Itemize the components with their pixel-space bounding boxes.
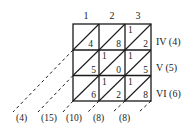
diagonal-sum: (10) (66, 113, 82, 124)
diagonal-sum: (8) (119, 113, 130, 124)
cell-tens: 1 (128, 77, 133, 87)
row-label: VI (6) (156, 88, 181, 100)
row-label: IV (4) (156, 36, 181, 48)
lattice-diagram: 1 2 3 IV (4) V (5) VI (6) 4 8 1 2 5 1 0 … (0, 0, 194, 129)
cell-units: 5 (91, 65, 96, 75)
row-label: V (5) (156, 62, 177, 74)
column-header: 2 (110, 10, 115, 21)
diagonal-sum: (8) (93, 113, 104, 124)
cell-tens: 1 (102, 51, 107, 61)
cell-diagonals (73, 24, 151, 101)
cell-units: 2 (116, 90, 121, 100)
cell-tens: 1 (128, 51, 133, 61)
cell-units: 8 (116, 39, 121, 49)
cell-units: 4 (88, 39, 93, 49)
cell-units: 2 (143, 39, 148, 49)
column-header: 3 (136, 10, 141, 21)
diagonal-sum: (15) (41, 113, 57, 124)
cell-tens: 1 (128, 25, 133, 35)
diagonal-sum: (4) (16, 113, 27, 124)
cell-units: 8 (143, 90, 148, 100)
cell-tens: 1 (102, 77, 107, 87)
column-header: 1 (84, 10, 89, 21)
cell-units: 5 (143, 65, 148, 75)
cell-units: 0 (116, 65, 121, 75)
cell-units: 6 (91, 90, 96, 100)
